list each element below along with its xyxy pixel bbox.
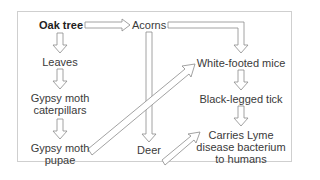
node-leaves: Leaves bbox=[40, 56, 80, 68]
node-white-footed-mice: White-footed mice bbox=[196, 57, 286, 69]
node-caterpillars-line1: Gypsy moth bbox=[30, 92, 90, 104]
node-lyme-line1: Carries Lyme bbox=[194, 129, 288, 141]
node-caterpillars-line2: caterpillars bbox=[30, 104, 90, 116]
node-pupae-line2: pupae bbox=[30, 154, 90, 166]
node-oak-tree: Oak tree bbox=[38, 19, 84, 31]
node-deer: Deer bbox=[134, 144, 164, 156]
node-acorns: Acorns bbox=[132, 19, 166, 31]
arrow-oak-to-leaves bbox=[53, 33, 67, 53]
arrow-mice-to-tick bbox=[234, 70, 248, 90]
node-lyme-line2: disease bacterium bbox=[194, 141, 288, 153]
arrow-tick-to-lyme bbox=[234, 106, 248, 126]
arrow-acorns-to-mice bbox=[168, 22, 248, 53]
arrow-leaves-to-caterpillars bbox=[53, 69, 67, 89]
arrow-pupae-to-mice bbox=[88, 64, 195, 155]
arrow-oak-to-acorns bbox=[85, 19, 130, 31]
arrow-acorns-to-deer bbox=[142, 32, 156, 142]
node-black-legged-tick: Black-legged tick bbox=[198, 93, 284, 105]
node-lyme-line3: to humans bbox=[194, 153, 288, 165]
node-pupae-line1: Gypsy moth bbox=[30, 142, 90, 154]
arrow-caterpillars-to-pupae bbox=[53, 119, 67, 139]
